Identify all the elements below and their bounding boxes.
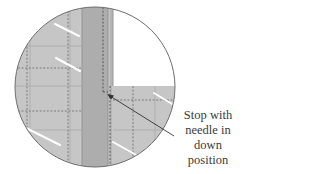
caption-line-3: down	[178, 138, 236, 153]
caption-line-4: position	[178, 153, 236, 168]
open-area	[113, 0, 236, 86]
seam-strip	[82, 0, 108, 174]
caption-text: Stop with needle in down position	[178, 108, 236, 168]
caption-line-1: Stop with	[178, 108, 236, 123]
caption-line-2: needle in	[178, 123, 236, 138]
